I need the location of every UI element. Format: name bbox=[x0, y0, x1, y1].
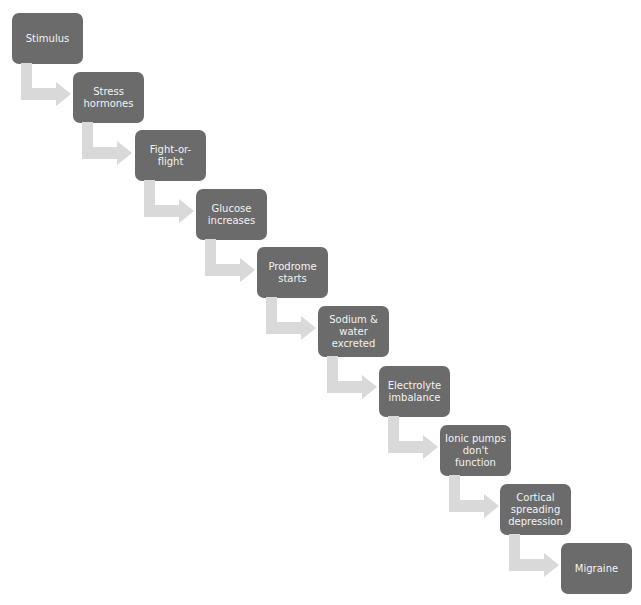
step-ionic-pumps: Ionic pumps don't function bbox=[440, 425, 511, 476]
step-label: Stress hormones bbox=[84, 86, 134, 110]
step-cortical-spreading-depression: Cortical spreading depression bbox=[500, 484, 571, 535]
elbow-arrow-icon bbox=[204, 239, 256, 284]
step-label: Stimulus bbox=[26, 33, 69, 45]
step-prodrome-starts: Prodrome starts bbox=[257, 247, 328, 298]
elbow-arrow-icon bbox=[448, 475, 500, 520]
step-fight-or-flight: Fight-or- flight bbox=[135, 130, 206, 181]
step-label: Fight-or- flight bbox=[150, 144, 191, 168]
step-label: Glucose increases bbox=[208, 203, 255, 227]
elbow-arrow-icon bbox=[508, 534, 560, 579]
step-label: Electrolyte imbalance bbox=[388, 380, 441, 404]
step-migraine: Migraine bbox=[561, 543, 632, 594]
step-label: Prodrome starts bbox=[268, 261, 316, 285]
step-glucose-increases: Glucose increases bbox=[196, 189, 267, 240]
elbow-arrow-icon bbox=[326, 356, 378, 401]
elbow-arrow-icon bbox=[20, 63, 72, 108]
step-label: Ionic pumps don't function bbox=[445, 433, 506, 469]
step-label: Sodium & water excreted bbox=[329, 314, 378, 350]
elbow-arrow-icon bbox=[387, 416, 439, 461]
step-electrolyte-imbalance: Electrolyte imbalance bbox=[379, 366, 450, 417]
elbow-arrow-icon bbox=[81, 122, 133, 167]
step-label: Cortical spreading depression bbox=[508, 492, 563, 528]
step-sodium-water-excreted: Sodium & water excreted bbox=[318, 306, 389, 357]
step-stimulus: Stimulus bbox=[12, 13, 83, 64]
step-stress-hormones: Stress hormones bbox=[73, 72, 144, 123]
elbow-arrow-icon bbox=[143, 180, 195, 225]
elbow-arrow-icon bbox=[265, 297, 317, 342]
step-label: Migraine bbox=[575, 563, 618, 575]
